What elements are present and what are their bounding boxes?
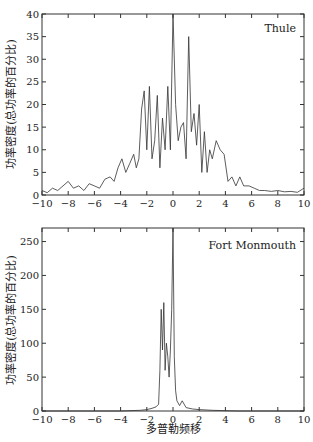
y-tick-label: 40 (26, 9, 39, 20)
x-tick-label: 4 (222, 198, 228, 209)
y-tick-label: 5 (33, 167, 39, 178)
series-line (42, 228, 304, 411)
x-tick-label: 6 (248, 414, 254, 425)
y-tick-label: 250 (20, 236, 39, 247)
y-tick-label: 10 (26, 144, 39, 155)
annotation-fort-monmouth: Fort Monmouth (209, 239, 296, 252)
series-line (42, 14, 304, 193)
ylabel-bottom: 功率密度(总功率的百分比) (4, 255, 18, 385)
plot-frame (42, 14, 304, 195)
annotation-thule: Thule (264, 22, 296, 35)
x-tick-label: 10 (298, 198, 311, 209)
x-tick-label: −2 (139, 198, 154, 209)
x-tick-label: 0 (170, 198, 176, 209)
ylabel-top: 功率密度(总功率的百分比) (4, 39, 18, 169)
x-tick-label: 10 (298, 414, 311, 425)
y-tick-label: 50 (26, 372, 39, 383)
y-tick-label: 0 (33, 190, 39, 201)
x-tick-label: 8 (275, 198, 281, 209)
x-tick-label: −4 (113, 198, 128, 209)
x-tick-label: −4 (113, 414, 128, 425)
y-tick-label: 30 (26, 54, 39, 65)
x-tick-label: 8 (275, 414, 281, 425)
chart-fort-monmouth: −10−8−6−4−20246810050100150200250 (20, 228, 310, 425)
y-tick-label: 200 (20, 270, 39, 281)
x-tick-label: −8 (61, 198, 76, 209)
y-tick-label: 100 (20, 338, 39, 349)
x-tick-label: 4 (222, 414, 228, 425)
x-tick-label: −6 (87, 198, 102, 209)
x-tick-label: 6 (248, 198, 254, 209)
y-tick-label: 25 (26, 76, 39, 87)
y-tick-label: 0 (33, 406, 39, 417)
y-tick-label: 20 (26, 99, 39, 110)
x-tick-label: 2 (196, 198, 202, 209)
y-tick-label: 15 (26, 122, 39, 133)
xlabel-bottom: 多普勒频移 (146, 422, 201, 436)
y-tick-label: 150 (20, 304, 39, 315)
chart-thule: −10−8−6−4−202468100510152025303540 (26, 9, 310, 210)
x-tick-label: −8 (61, 414, 76, 425)
x-tick-label: −6 (87, 414, 102, 425)
y-tick-label: 35 (26, 31, 39, 42)
figure: −10−8−6−4−202468100510152025303540 −10−8… (0, 0, 313, 442)
